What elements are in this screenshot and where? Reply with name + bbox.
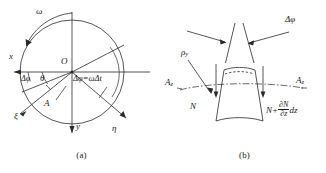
omega-arc — [27, 13, 72, 44]
rho-subscript: y — [185, 50, 188, 57]
element-bottom-edge — [216, 118, 263, 121]
origin-label: O — [61, 57, 68, 66]
element-right-edge — [255, 70, 263, 121]
eta-axis-arrowhead — [120, 111, 126, 118]
y-axis-arrowhead — [69, 126, 74, 133]
point-A-label: A — [44, 99, 50, 108]
x-axis-arrowhead — [14, 69, 21, 74]
fraction-denominator: ∂z — [278, 109, 289, 118]
delta-phi-small-label: Δφ — [21, 75, 30, 83]
delta-phi-left-arrow-line — [187, 31, 225, 42]
partial-derivative-fraction: ∂N∂z — [278, 101, 289, 119]
element-left-edge — [216, 70, 224, 121]
A-leader-line — [56, 86, 66, 100]
element-inner-curve — [225, 72, 254, 74]
panel-a: ω x y O θ Δφ A ξ η Δφ=ωΔt (a) — [0, 0, 163, 173]
Az-left-label: Az — [165, 78, 173, 88]
omega-label: ω — [36, 7, 42, 16]
Az-left-subscript: z — [171, 80, 174, 87]
Az-left-leader — [177, 88, 182, 89]
rho-y-label: ρy — [181, 48, 188, 58]
figure-container: ω x y O θ Δφ A ξ η Δφ=ωΔt (a) — [0, 0, 326, 173]
wedge-left-line — [226, 23, 236, 63]
A-angle-arc — [46, 85, 51, 90]
rho-y-arrowhead — [207, 88, 213, 94]
Az-right-label: Az — [296, 76, 304, 86]
N-left-arrowhead — [214, 91, 219, 98]
caption-b: (b) — [163, 150, 326, 160]
x-axis-label: x — [9, 52, 13, 61]
rho-y-leader-line — [188, 60, 210, 92]
theta-label: θ — [40, 74, 44, 83]
delta-phi-leader-line — [99, 87, 107, 98]
N-right-label: N+∂N∂zdz — [266, 101, 297, 119]
panel-b: Δφ ρy Az Az N N+∂N∂zdz (b) — [163, 0, 326, 173]
eta-axis-label: η — [112, 124, 116, 133]
Az-right-subscript: z — [302, 78, 305, 85]
element-top-edge — [224, 67, 255, 70]
N-right-arrowhead — [261, 91, 266, 98]
N-right-prefix: N+ — [266, 105, 278, 115]
delta-phi-equation-label: Δφ=ωΔt — [73, 74, 102, 83]
y-axis-label: y — [76, 122, 80, 131]
delta-phi-left-arrowhead — [220, 39, 227, 44]
delta-phi-label-b: Δφ — [285, 15, 295, 24]
section-line-Az — [180, 84, 303, 90]
N-left-label: N — [190, 102, 196, 111]
radius-upper-right — [72, 45, 124, 72]
N-right-suffix: dz — [289, 105, 297, 115]
xi-axis-label: ξ — [14, 112, 18, 121]
delta-phi-right-arrow-line — [249, 32, 289, 43]
caption-a: (a) — [0, 150, 163, 160]
fraction-numerator: ∂N — [278, 101, 289, 109]
